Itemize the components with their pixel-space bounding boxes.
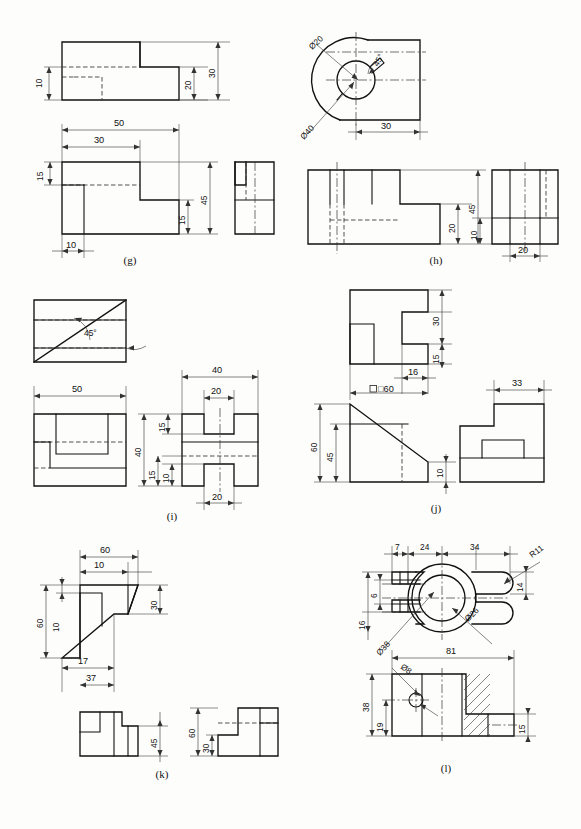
figure-k-caption: (k) xyxy=(132,768,192,780)
dim-h-d20: Ø20 xyxy=(307,33,326,51)
figure-g-front-view xyxy=(62,42,179,100)
figure-h-caption: (h) xyxy=(406,254,466,266)
dim-h-45: 45 xyxy=(467,204,477,214)
figure-i: 45° 50 xyxy=(22,282,287,532)
dim-l-16: 16 xyxy=(357,620,367,630)
dim-l-24: 24 xyxy=(420,542,430,552)
figure-g-side-view xyxy=(235,162,274,234)
figure-k-front-view xyxy=(62,585,138,658)
figure-k-top-view xyxy=(80,712,138,756)
figure-g-top-view xyxy=(62,162,179,234)
dim-i-20t: 20 xyxy=(211,386,221,396)
dim-g-45: 45 xyxy=(199,195,209,205)
figure-j-top-view xyxy=(350,290,428,364)
dim-i-40t: 40 xyxy=(212,365,222,375)
figure-l-front-dims: 81 15 38 19 Ø8 xyxy=(361,646,536,742)
figure-i-front-dims: 50 xyxy=(34,384,126,414)
dim-i-15a: 15 xyxy=(157,422,167,432)
dim-g-10b: 10 xyxy=(66,240,76,250)
figure-k-top-dims: 45 xyxy=(138,712,168,762)
dim-k-30s: 30 xyxy=(201,743,211,753)
dim-k-30: 30 xyxy=(149,600,159,610)
dim-l-d26: Ø26 xyxy=(462,605,481,623)
dim-k-37: 37 xyxy=(86,673,96,683)
dim-l-81: 81 xyxy=(446,646,456,656)
dim-l-19: 19 xyxy=(375,722,385,732)
dim-g-50: 50 xyxy=(114,118,124,128)
figure-l-front-view xyxy=(386,668,520,742)
dim-j-15: 15 xyxy=(431,354,441,364)
figure-k-side-view xyxy=(218,708,278,756)
dim-j-16: 16 xyxy=(408,367,418,377)
dim-j-33: 33 xyxy=(512,378,522,388)
dim-k-45: 45 xyxy=(149,738,159,748)
dim-k-10v: 10 xyxy=(51,622,61,632)
dim-l-38: 38 xyxy=(361,702,371,712)
figure-l-caption: (l) xyxy=(416,762,476,774)
dim-h-20b: 20 xyxy=(518,245,528,255)
dim-g-30: 30 xyxy=(207,68,217,78)
figure-h-front-view xyxy=(308,162,440,254)
dim-j-60: 60 xyxy=(309,442,319,452)
dim-h-d40: Ø40 xyxy=(298,123,316,142)
figure-l: 7 24 34 R11 6 16 14 Ø38 xyxy=(296,540,564,790)
dim-g-20: 20 xyxy=(183,80,193,90)
figure-g-caption: (g) xyxy=(100,254,160,266)
dim-g-10a: 10 xyxy=(34,78,44,88)
dim-l-34: 34 xyxy=(470,542,480,552)
figure-i-side-dims: 40 20 40 15 15 10 xyxy=(133,365,258,510)
figure-i-top-view: 45° xyxy=(34,300,146,362)
dim-j-30: 30 xyxy=(431,316,441,326)
figure-h-top-view: Ø20 Ø40 45° 30 xyxy=(298,32,428,141)
dim-l-7: 7 xyxy=(395,542,400,552)
figure-i-side-view xyxy=(182,408,258,492)
figure-j-side-view xyxy=(460,404,544,482)
drawing-sheet: 10 20 30 50 xyxy=(0,0,581,829)
dim-g-15b: 15 xyxy=(177,215,187,225)
dim-k-60s: 60 xyxy=(187,728,197,738)
figure-l-top-dims: 7 24 34 R11 6 16 14 Ø38 xyxy=(357,542,545,657)
dim-h-20: 20 xyxy=(447,223,457,233)
dim-i-angle: 45° xyxy=(84,328,97,338)
section-hatching xyxy=(464,674,490,736)
dim-i-10: 10 xyxy=(161,473,171,483)
figure-i-caption: (i) xyxy=(142,510,202,522)
dim-i-40v: 40 xyxy=(133,447,143,457)
dim-j-sq60: □60 xyxy=(378,384,394,394)
dim-h-angle: 45° xyxy=(371,52,386,68)
figure-g-front-dims: 10 20 30 xyxy=(34,42,230,100)
figure-l-top-view xyxy=(382,554,513,640)
dim-k-10t: 10 xyxy=(94,560,104,570)
dim-h-10: 10 xyxy=(469,230,479,240)
dim-l-14: 14 xyxy=(515,582,525,592)
dim-l-15: 15 xyxy=(517,724,527,734)
dim-i-15b: 15 xyxy=(147,470,157,480)
dim-l-r11: R11 xyxy=(527,543,545,560)
figure-k-side-dims: 60 30 xyxy=(187,708,218,756)
figure-j-caption: (j) xyxy=(406,502,466,514)
figure-j-side-dims: 33 xyxy=(486,378,552,404)
dim-j-45: 45 xyxy=(325,452,335,462)
dim-k-60v: 60 xyxy=(35,618,45,628)
figure-j: 30 15 16 □60 6 xyxy=(296,282,564,532)
figure-g: 10 20 30 50 xyxy=(22,22,287,272)
dim-k-60t: 60 xyxy=(100,545,110,555)
dim-g-15a: 15 xyxy=(35,171,45,181)
figure-j-front-view xyxy=(350,404,428,482)
dim-j-10: 10 xyxy=(435,468,445,478)
figure-j-top-dims: 30 15 16 □60 xyxy=(350,290,452,400)
figure-i-front-view xyxy=(34,414,126,486)
figure-h-side-view xyxy=(492,162,558,254)
figure-k: 60 10 60 10 30 17 xyxy=(22,540,287,790)
dim-h-30: 30 xyxy=(381,121,391,131)
figure-h: Ø20 Ø40 45° 30 xyxy=(296,22,564,272)
dim-i-50: 50 xyxy=(72,384,82,394)
dim-k-17: 17 xyxy=(78,656,88,666)
dim-l-6: 6 xyxy=(369,593,379,598)
figure-j-front-dims: 60 45 10 xyxy=(309,404,456,494)
figure-h-side-dims: 10 20 xyxy=(469,218,548,262)
dim-i-20b: 20 xyxy=(212,492,222,502)
dim-g-30b: 30 xyxy=(94,135,104,145)
